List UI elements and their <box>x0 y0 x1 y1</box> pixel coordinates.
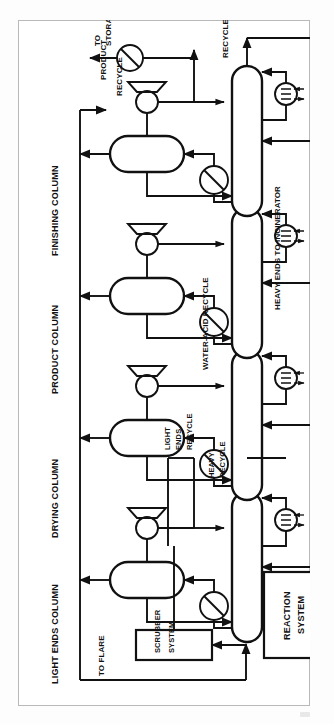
stream-label-light-ends-recycle-line1: LIGHT <box>163 427 172 450</box>
reflux-drum-4 <box>110 136 184 172</box>
column-title-drying: DRYING COLUMN <box>50 459 60 538</box>
reflux-pump-2 <box>128 366 166 397</box>
condenser-1 <box>200 592 228 620</box>
reflux-drum-1 <box>110 562 184 598</box>
column-title-finishing: FINISHING COLUMN <box>50 165 60 256</box>
reflux-pump-4 <box>128 82 166 113</box>
stream-label-heavy-recycle-line1: HEAVY <box>207 452 216 478</box>
column-title-group: LIGHT ENDS COLUMN DRYING COLUMN PRODUCT … <box>50 165 60 684</box>
stream-label-light-ends-recycle-line2: ENDS <box>174 429 183 450</box>
stream-label-heavy-recycle-line2: RECYCLE <box>218 441 227 478</box>
page-artifact <box>300 712 310 717</box>
condenser-4 <box>200 166 228 194</box>
vent-header <box>80 110 110 680</box>
stream-label-light-ends-recycle-line3: RECYCLE <box>185 413 194 450</box>
stream-label-to-storage-line1: TO <box>93 35 102 46</box>
reaction-system-unit: REACTION SYSTEM <box>264 572 310 658</box>
product-takeoff: RECYCLE PRODUCT TO STORAGE <box>90 20 194 96</box>
stream-label-to-flare: TO FLARE <box>97 635 106 676</box>
scrubber-system-label-line1: SCRUBBER <box>153 609 162 653</box>
stream-label-to-storage-line2: STORAGE <box>104 20 113 46</box>
distillation-column-2 <box>232 350 262 500</box>
figure-page: LIGHT ENDS COLUMN DRYING COLUMN PRODUCT … <box>0 0 334 724</box>
column-title-product: PRODUCT COLUMN <box>50 305 60 394</box>
stream-label-heavy-ends-to-incinerator: HEAVY ENDS TO INCINERATOR <box>273 186 282 310</box>
process-flow-diagram-canvas: LIGHT ENDS COLUMN DRYING COLUMN PRODUCT … <box>18 20 310 706</box>
pfd-svg: LIGHT ENDS COLUMN DRYING COLUMN PRODUCT … <box>18 20 310 706</box>
reflux-pump-3 <box>128 224 166 255</box>
reaction-system-label-line2: SYSTEM <box>296 596 306 634</box>
stream-label-recycle-bottom: RECYCLE <box>221 20 230 58</box>
stream-label-recycle-overhead: RECYCLE <box>115 57 124 96</box>
reboiler-1 <box>275 509 304 531</box>
reflux-pump-1 <box>128 508 166 539</box>
distillation-column-4 <box>232 66 262 216</box>
reflux-drum-3 <box>110 278 184 314</box>
distillation-column-3 <box>232 208 262 358</box>
stream-label-group: HEAVY RECYCLE LIGHT ENDS RECYCLE WATER-A… <box>163 20 282 478</box>
reboiler-2 <box>275 367 304 389</box>
reaction-system-label-line1: REACTION <box>282 591 292 640</box>
diagram-rotation-wrapper: LIGHT ENDS COLUMN DRYING COLUMN PRODUCT … <box>18 20 310 706</box>
reboiler-4 <box>275 83 304 105</box>
reflux-drum-2 <box>110 420 184 456</box>
distillation-column-1 <box>232 492 262 642</box>
column-title-light-ends: LIGHT ENDS COLUMN <box>50 584 60 684</box>
stream-label-water-acid-recycle: WATER-ACID RECYCLE <box>201 277 210 370</box>
